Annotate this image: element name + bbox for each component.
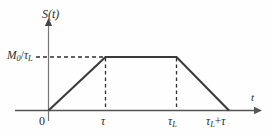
x-tick-sum-tau2: τ [221, 115, 225, 127]
x-tick-label-tau: τ [101, 116, 105, 128]
x-tick-tauL-subscript: L [172, 120, 177, 129]
x-tick-label-tauL: τL [168, 116, 177, 129]
y-tick-M: M [7, 49, 17, 61]
x-axis-label: t [251, 92, 254, 103]
x-tick-label-zero: 0 [39, 115, 45, 127]
figure-container: S(t) t M0/τL 0 τ τL τL+τ [0, 0, 270, 138]
x-tick-label-tauL-plus-tau: τL+τ [206, 116, 225, 129]
y-axis-label: S(t) [42, 8, 59, 20]
y-axis [45, 18, 52, 121]
y-tick-label-plateau: M0/τL [7, 50, 33, 63]
signal-curve [49, 57, 230, 111]
x-axis-arrowhead [254, 107, 262, 114]
y-tick-tau-subscript: L [28, 54, 33, 63]
